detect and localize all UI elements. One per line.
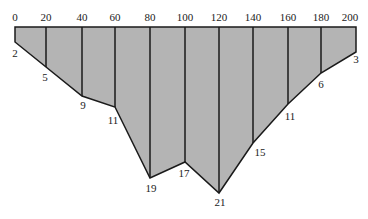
depth-label: 5	[42, 71, 48, 83]
tick-label: 140	[245, 11, 262, 23]
tick-label: 20	[41, 11, 53, 23]
cross-section-diagram: 0 20 40 60 80 100 120 140 160 180 200 2 …	[0, 0, 368, 219]
distance-axis-labels: 0 20 40 60 80 100 120 140 160 180 200	[12, 11, 359, 23]
depth-label: 17	[179, 167, 191, 179]
tick-label: 0	[12, 11, 18, 23]
tick-label: 100	[177, 11, 194, 23]
depth-label: 2	[12, 47, 18, 59]
tick-label: 60	[110, 11, 122, 23]
depth-label: 19	[146, 182, 158, 194]
depth-label: 15	[255, 146, 267, 158]
depth-label: 3	[353, 53, 359, 65]
depth-label: 9	[80, 99, 86, 111]
depth-label: 11	[285, 110, 296, 122]
tick-label: 120	[211, 11, 228, 23]
tick-label: 160	[280, 11, 297, 23]
depth-label: 11	[108, 114, 119, 126]
tick-label: 200	[342, 11, 359, 23]
depth-label: 6	[318, 78, 324, 90]
tick-label: 80	[145, 11, 157, 23]
tick-label: 40	[77, 11, 89, 23]
depth-label: 21	[215, 196, 226, 208]
tick-label: 180	[313, 11, 330, 23]
